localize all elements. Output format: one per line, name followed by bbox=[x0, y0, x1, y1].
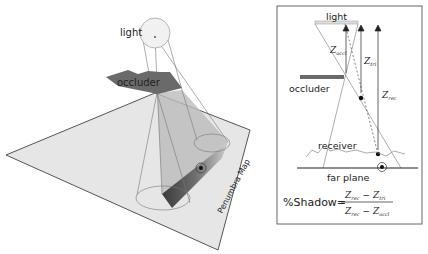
scene-occluder-label: occluder bbox=[117, 77, 161, 88]
scene-3d: light occluder Penumbra Map bbox=[6, 18, 252, 250]
penumbra-map-plane bbox=[6, 93, 250, 250]
light-source bbox=[140, 18, 170, 48]
inset-panel: light occluder Zoccl Ztri Zrec receiver bbox=[277, 6, 422, 224]
inset-occluder-label: occluder bbox=[289, 83, 330, 94]
formula-lhs: %Shadow= bbox=[283, 196, 346, 209]
inset-light-label: light bbox=[326, 11, 347, 22]
scene-light-label: light bbox=[120, 27, 142, 38]
far-plane-label: far plane bbox=[327, 172, 370, 183]
inset-occluder-bar bbox=[300, 75, 344, 79]
penumbra-diagram: light occluder Penumbra Map light occlud… bbox=[0, 0, 428, 254]
inset-receiver-label: receiver bbox=[318, 140, 357, 151]
